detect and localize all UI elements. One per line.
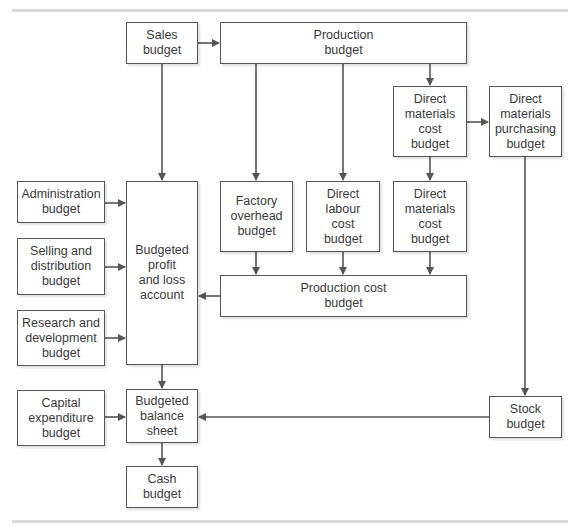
research-development-budget-node: Research and development budget [17,310,105,366]
budgeted-balance-sheet-node: Budgeted balance sheet [126,389,198,443]
direct-materials-purchasing-budget-node: Direct materials purchasing budget [489,86,562,157]
direct-materials-cost-budget-top-node: Direct materials cost budget [393,86,467,157]
cash-budget-node: Cash budget [126,466,198,508]
budgeted-profit-loss-node: Budgeted profit and loss account [126,181,198,365]
sales-budget-node: Sales budget [126,22,198,64]
administration-budget-node: Administration budget [17,181,105,223]
selling-distribution-budget-node: Selling and distribution budget [17,238,105,295]
stock-budget-node: Stock budget [489,396,562,438]
direct-materials-cost-budget-mid-node: Direct materials cost budget [393,181,467,252]
capital-expenditure-budget-node: Capital expenditure budget [17,390,105,446]
direct-labour-cost-budget-node: Direct labour cost budget [306,181,380,252]
factory-overhead-budget-node: Factory overhead budget [220,181,293,252]
production-cost-budget-node: Production cost budget [220,275,467,317]
production-budget-node: Production budget [220,22,467,64]
